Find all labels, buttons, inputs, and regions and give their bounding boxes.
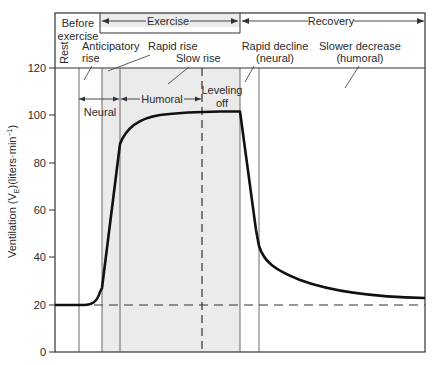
- slower-decrease-label-2: (humoral): [336, 52, 383, 64]
- y-tick-100: 100: [28, 109, 46, 121]
- ventilation-chart: 0 20 40 60 80 100 120 Ventilation (VE)(l…: [0, 0, 439, 365]
- neural-arrow-left-head: [79, 97, 85, 102]
- y-axis-label: Ventilation (VE)(liters·min−1): [6, 125, 20, 258]
- before-exercise-label: Before: [62, 17, 94, 29]
- anticipatory-rise-label: Anticipatory: [82, 40, 140, 52]
- neural-label: Neural: [84, 106, 116, 118]
- leveling-off-label-2: off: [216, 97, 229, 109]
- rapid-decline-label: Rapid decline: [242, 40, 309, 52]
- rapid-decline-label-2: (neural): [256, 52, 294, 64]
- rest-label: Rest: [58, 41, 70, 64]
- anticipatory-rise-label-2: rise: [82, 52, 100, 64]
- y-tick-0: 0: [40, 346, 46, 358]
- y-tick-80: 80: [34, 157, 46, 169]
- leveling-off-label: Leveling: [202, 84, 243, 96]
- recovery-arrow-left-head: [242, 18, 249, 24]
- rapid-rise-label: Rapid rise: [148, 40, 198, 52]
- y-axis: [49, 68, 55, 352]
- slower-decrease-pointer: [345, 66, 359, 88]
- humoral-label: Humoral: [141, 93, 183, 105]
- recovery-arrow-right-head: [417, 18, 424, 24]
- y-tick-60: 60: [34, 204, 46, 216]
- slower-decrease-label: Slower decrease: [319, 40, 401, 52]
- y-tick-40: 40: [34, 251, 46, 263]
- recovery-label: Recovery: [308, 15, 355, 27]
- y-tick-120: 120: [28, 62, 46, 74]
- slow-rise-label: Slow rise: [176, 52, 221, 64]
- y-tick-20: 20: [34, 299, 46, 311]
- exercise-label: Exercise: [147, 15, 189, 27]
